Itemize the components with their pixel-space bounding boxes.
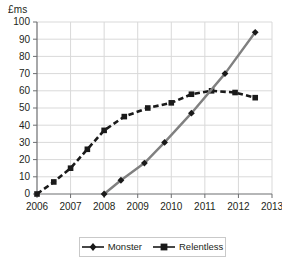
legend-key-relentless-square-icon [153, 242, 175, 252]
x-axis-tick-labels: 20062007200820092010201120122013 [26, 201, 282, 212]
data-point-relentless [68, 165, 74, 171]
series-monster [101, 29, 259, 197]
legend-label-relentless: Relentless [179, 242, 223, 252]
chart-legend: Monster Relentless [79, 237, 226, 257]
legend-item-monster[interactable]: Monster [82, 242, 142, 252]
y-tick-label: 20 [19, 154, 31, 165]
y-tick-label: 80 [19, 51, 31, 62]
data-point-relentless [85, 146, 91, 152]
legend-label-monster: Monster [108, 242, 142, 252]
y-tick-label: 40 [19, 120, 31, 131]
y-tick-label: 30 [19, 137, 31, 148]
data-point-relentless [101, 128, 107, 134]
data-point-relentless [145, 105, 151, 111]
y-tick-label: 100 [13, 16, 30, 27]
y-tick-label: 90 [19, 34, 31, 45]
x-tick-label: 2009 [127, 201, 150, 212]
data-point-relentless [34, 191, 40, 197]
data-point-relentless [168, 100, 174, 106]
plot-area: 0102030405060708090100 20062007200820092… [0, 0, 282, 232]
x-tick-label: 2007 [59, 201, 82, 212]
x-tick-label: 2012 [227, 201, 250, 212]
y-tick-label: 50 [19, 102, 31, 113]
y-tick-label: 0 [24, 188, 30, 199]
x-axis-ticks [37, 194, 272, 198]
data-point-relentless [51, 179, 57, 185]
data-point-relentless [232, 90, 238, 96]
plot-svg: 0102030405060708090100 20062007200820092… [0, 0, 282, 232]
y-tick-label: 10 [19, 171, 31, 182]
y-tick-label: 70 [19, 68, 31, 79]
data-point-relentless [189, 91, 195, 97]
y-axis-tick-labels: 0102030405060708090100 [13, 16, 30, 199]
x-tick-label: 2008 [93, 201, 116, 212]
x-tick-label: 2011 [194, 201, 216, 212]
data-point-relentless [252, 95, 258, 101]
line-chart: £ms 0102030405060708090100 2006200720082… [0, 0, 282, 266]
data-point-relentless [121, 114, 127, 120]
x-tick-label: 2010 [160, 201, 183, 212]
x-tick-label: 2006 [26, 201, 49, 212]
y-tick-label: 60 [19, 85, 31, 96]
legend-item-relentless[interactable]: Relentless [153, 242, 223, 252]
legend-key-monster-diamond-icon [82, 242, 104, 252]
x-tick-label: 2013 [261, 201, 282, 212]
